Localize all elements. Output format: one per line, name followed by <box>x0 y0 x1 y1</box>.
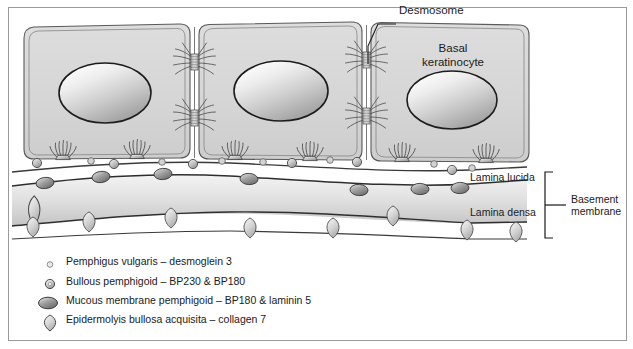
legend: Pemphigus vulgaris – desmoglein 3 Bu <box>38 255 438 335</box>
basal-keratinocyte-cell-2 <box>199 22 362 160</box>
label-basal-keratinocyte-line2: keratinocyte <box>422 56 484 68</box>
label-basal-keratinocyte-line1: Basal <box>439 42 468 54</box>
label-basal-keratinocyte: Basal keratinocyte <box>407 42 499 69</box>
dark-ellipse-icon <box>34 294 58 313</box>
legend-item: Pemphigus vulgaris – desmoglein 3 <box>38 255 438 275</box>
basal-keratinocyte-cell-1 <box>24 24 190 159</box>
legend-item: Epidermolyis bullosa acquisita – collage… <box>38 313 438 335</box>
label-desmosome: Desmosome <box>399 4 464 18</box>
ring-circle-icon <box>38 275 62 294</box>
legend-item: Mucous membrane pemphigoid – BP180 & lam… <box>38 294 438 313</box>
legend-item-label: Mucous membrane pemphigoid – BP180 & lam… <box>66 294 311 306</box>
small-open-circle-icon <box>38 255 62 274</box>
nucleus <box>407 71 497 129</box>
legend-item: Bullous pemphigoid – BP230 & BP180 <box>38 275 438 294</box>
label-lamina-lucida: Lamina lucida <box>470 171 535 183</box>
label-basement-membrane-line1: Basement <box>571 193 618 205</box>
label-basement-membrane: Basement membrane <box>571 193 631 218</box>
teardrop-icon <box>38 313 62 332</box>
nucleus <box>234 61 328 121</box>
legend-item-label: Epidermolyis bullosa acquisita – collage… <box>66 313 266 325</box>
nucleus <box>59 63 151 123</box>
label-basement-membrane-line2: membrane <box>571 205 621 217</box>
legend-item-label: Pemphigus vulgaris – desmoglein 3 <box>66 255 232 267</box>
legend-item-label: Bullous pemphigoid – BP230 & BP180 <box>66 275 245 287</box>
basement-membrane-bracket <box>545 172 566 238</box>
diagram-canvas: Desmosome Basal keratinocyte Lamina luci… <box>0 0 633 349</box>
label-lamina-densa: Lamina densa <box>470 206 536 218</box>
